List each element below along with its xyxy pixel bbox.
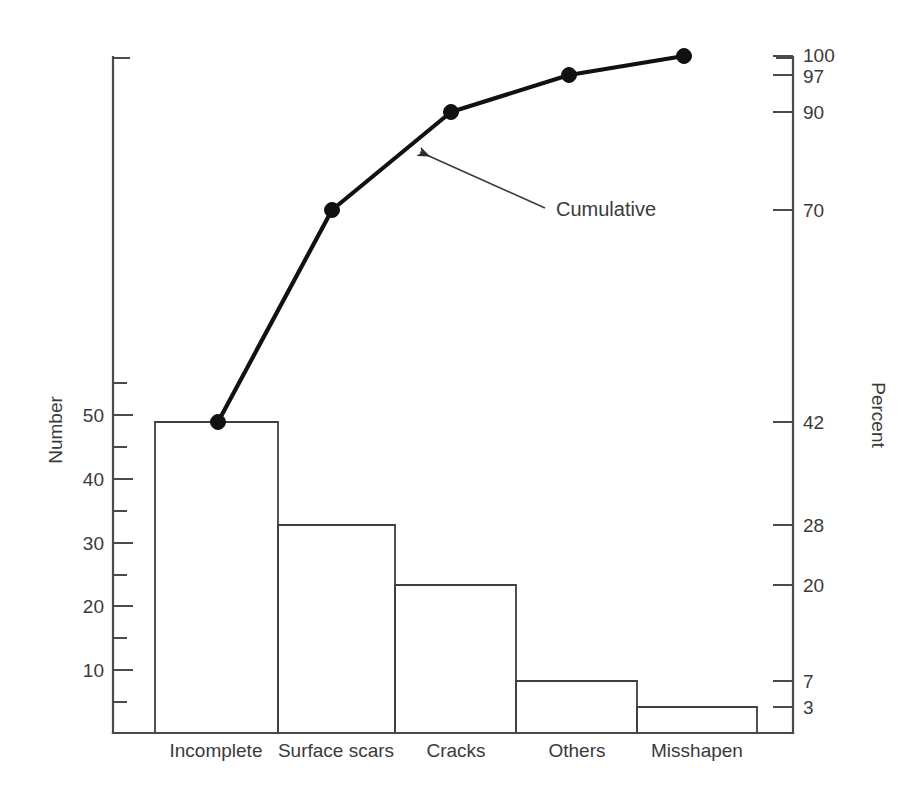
category-label-surface-scars: Surface scars [278, 740, 394, 761]
left-tick-label-20: 20 [83, 596, 104, 617]
category-label-cracks: Cracks [426, 740, 485, 761]
cumulative-point-5 [677, 49, 692, 64]
cumulative-point-3 [444, 105, 459, 120]
category-label-incomplete: Incomplete [170, 740, 263, 761]
right-axis-title: Percent [868, 382, 889, 448]
left-axis: 50 40 30 20 10 Number [45, 57, 133, 733]
left-tick-label-40: 40 [83, 469, 104, 490]
right-tick-label-70: 70 [803, 200, 824, 221]
category-label-others: Others [548, 740, 605, 761]
bar-others [516, 681, 637, 733]
category-labels: Incomplete Surface scars Cracks Others M… [170, 740, 743, 761]
right-tick-label-7: 7 [803, 671, 814, 692]
bar-surface-scars [278, 525, 395, 733]
cumulative-annotation: Cumulative [420, 152, 656, 220]
right-tick-label-100: 100 [803, 45, 835, 66]
bar-misshapen [637, 707, 757, 733]
cumulative-series [211, 49, 692, 430]
bar-cracks [395, 585, 516, 733]
right-tick-label-3: 3 [803, 697, 814, 718]
right-tick-label-20: 20 [803, 575, 824, 596]
bars-group [155, 422, 757, 733]
left-tick-label-30: 30 [83, 533, 104, 554]
bar-incomplete [155, 422, 278, 733]
cumulative-annotation-label: Cumulative [556, 198, 656, 220]
left-tick-label-50: 50 [83, 405, 104, 426]
right-tick-label-97: 97 [803, 66, 824, 87]
left-axis-title: Number [45, 396, 66, 464]
right-axis: 100 97 90 70 42 28 20 7 3 Percent [773, 45, 889, 733]
cumulative-point-2 [325, 203, 340, 218]
cumulative-annotation-arrow [420, 152, 545, 208]
left-tick-label-10: 10 [83, 660, 104, 681]
pareto-chart: 50 40 30 20 10 Number [0, 0, 918, 802]
cumulative-point-4 [562, 68, 577, 83]
category-label-misshapen: Misshapen [651, 740, 743, 761]
right-tick-label-90: 90 [803, 102, 824, 123]
cumulative-point-1 [211, 415, 226, 430]
right-tick-label-28: 28 [803, 515, 824, 536]
pareto-chart-svg: 50 40 30 20 10 Number [0, 0, 918, 802]
right-tick-label-42: 42 [803, 412, 824, 433]
